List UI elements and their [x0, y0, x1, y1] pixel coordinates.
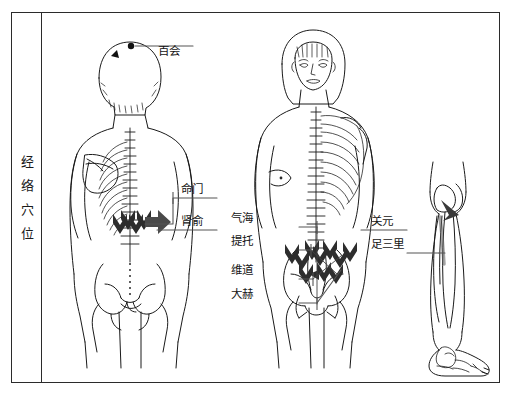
side-title-char-1: 经	[14, 150, 40, 174]
scapula-back	[83, 154, 118, 193]
ribcage-front	[321, 115, 364, 215]
spine-front	[307, 107, 325, 262]
label-guanyuan: 关元	[371, 212, 393, 228]
baihui-point-dot	[128, 43, 134, 49]
chart-side-title: 经 络 穴 位	[14, 150, 40, 246]
side-title-char-3: 穴	[14, 198, 40, 222]
spine-back	[121, 128, 139, 262]
label-weidao: 维道	[231, 261, 253, 277]
leg-detail-figure	[429, 162, 489, 376]
sacrum-dots	[129, 263, 131, 295]
label-qihai: 气海	[231, 209, 253, 225]
baihui-arrow-glyph	[111, 50, 119, 58]
label-baihui: 百会	[158, 42, 180, 58]
back-view-figure	[70, 42, 193, 368]
zusanli-marker	[440, 200, 459, 264]
label-zusanli: 足三里	[371, 235, 404, 251]
label-mingmen: 命门	[181, 180, 203, 196]
pelvis-back	[95, 264, 165, 330]
leader-lines	[135, 46, 445, 303]
facial-features	[292, 60, 336, 84]
front-view-figure	[255, 30, 375, 368]
occiput-hatching	[101, 82, 158, 113]
bangs-hatching	[297, 44, 328, 57]
side-title-char-4: 位	[14, 222, 40, 246]
acupoint-chart-page: 经 络 穴 位	[0, 0, 511, 396]
label-tituo: 提托	[231, 232, 253, 248]
side-title-char-2: 络	[14, 174, 40, 198]
anatomy-illustration	[41, 12, 500, 383]
label-dahe: 大赫	[231, 285, 253, 301]
label-shenshu: 肾俞	[181, 212, 203, 228]
